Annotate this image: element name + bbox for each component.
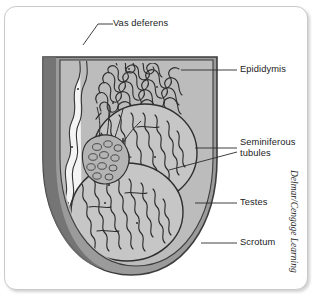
attribution-text: Delmar/Cengage Learning: [289, 170, 299, 280]
label-epididymis: Epididymis: [240, 64, 286, 75]
label-testes: Testes: [240, 197, 267, 208]
label-scrotum: Scrotum: [240, 237, 275, 248]
label-vas-deferens: Vas deferens: [113, 18, 168, 29]
label-seminiferous-tubules-line2: tubules: [240, 148, 271, 159]
label-seminiferous-tubules-line1: Seminiferous: [240, 137, 295, 148]
figure-card: Vas deferens Epididymis Seminiferous tub…: [4, 6, 308, 290]
leader-vas-deferens: [83, 24, 113, 45]
